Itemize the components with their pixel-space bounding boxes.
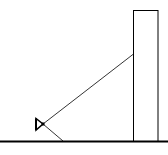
instrument-icon — [36, 119, 45, 131]
sight-line — [43, 54, 134, 124]
building — [134, 11, 159, 142]
support-leg — [43, 124, 63, 141]
diagram-canvas — [0, 0, 168, 155]
